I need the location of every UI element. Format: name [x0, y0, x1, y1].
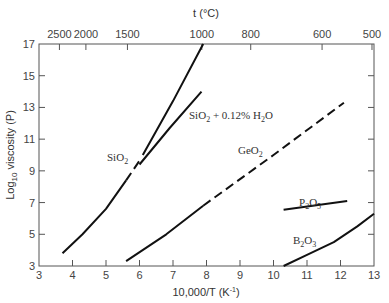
label-geo2: GeO2	[238, 144, 263, 159]
top-tick-label: 500	[363, 28, 381, 40]
series-line-sio2-0-12-h2o	[140, 92, 202, 165]
y-tick-label: 15	[23, 70, 35, 82]
top-axis-title: t (°C)	[193, 7, 219, 19]
top-tick-label: 1500	[115, 28, 139, 40]
top-tick-label: 1000	[190, 28, 214, 40]
plot-frame	[39, 44, 374, 266]
x-tick-label: 13	[368, 269, 380, 281]
top-tick-label: 800	[242, 28, 260, 40]
x-tick-label: 8	[203, 269, 209, 281]
y-tick-label: 17	[23, 38, 35, 50]
x-tick-label: 4	[69, 269, 75, 281]
x-tick-label: 6	[136, 269, 142, 281]
y-tick-label: 9	[29, 165, 35, 177]
x-tick-label: 12	[334, 269, 346, 281]
y-tick-label: 13	[23, 101, 35, 113]
label-sio2: SiO2	[107, 151, 128, 166]
x-tick-label: 7	[170, 269, 176, 281]
label-b2o3: B2O3	[293, 234, 316, 249]
y-tick-label: 7	[29, 197, 35, 209]
x-tick-label: 9	[237, 269, 243, 281]
top-tick-label: 2000	[74, 28, 98, 40]
y-tick-label: 5	[29, 228, 35, 240]
label-sio2-h2o: SiO2 + 0.12% H2O	[189, 109, 273, 124]
label-p2o5: P2O5	[299, 196, 321, 211]
y-axis-title: Log10 viscosity (P)	[4, 110, 19, 200]
top-tick-label: 600	[313, 28, 331, 40]
y-tick-label: 3	[29, 260, 35, 272]
y-tick-label: 11	[24, 133, 35, 145]
top-tick-label: 2500	[47, 28, 71, 40]
x-tick-label: 11	[301, 269, 312, 281]
viscosity-chart: 3456789101112133579111315172500200015001…	[0, 0, 389, 303]
x-axis-title: 10,000/T (K-1)	[172, 286, 239, 298]
x-tick-label: 10	[267, 269, 279, 281]
axes: 3456789101112133579111315172500200015001…	[23, 28, 381, 281]
series-line-sio2	[126, 158, 141, 180]
series-line-geo2	[126, 206, 203, 262]
x-tick-label: 5	[103, 269, 109, 281]
series-line-sio2	[63, 180, 127, 253]
x-tick-label: 3	[36, 269, 42, 281]
